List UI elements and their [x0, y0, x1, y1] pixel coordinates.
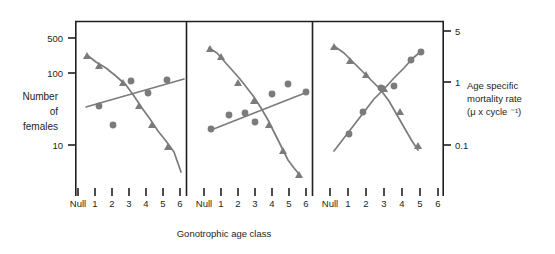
panel-3-circle-2: [378, 85, 385, 92]
panel-1-triangle-4: [148, 121, 156, 128]
panel-2-females-fit-line: [209, 48, 299, 174]
panel-1-circle-5: [164, 77, 171, 84]
panel-1-mortality-fit-line: [86, 79, 184, 107]
panel-2-xlabel-5: 5: [286, 198, 291, 209]
right-axis-title-line-3: (μ x cycle ⁻¹): [467, 106, 521, 117]
panel-2-xlabel-6: 6: [303, 198, 308, 209]
panel-2-circle-4: [269, 91, 276, 98]
left-axis-title-line-3: females: [23, 121, 58, 132]
panel-1-xlabel-4: 4: [143, 198, 148, 209]
panel-2-triangle-null: [206, 45, 214, 52]
panel-2-x-ticks: [204, 188, 306, 196]
panel-3-xlabel-4: 4: [399, 198, 404, 209]
right-tick-label-5: 5: [455, 26, 460, 37]
left-tick-label-500: 500: [47, 33, 63, 44]
right-axis-ticks: [443, 31, 451, 145]
chart-svg: 500 100 10 Number of females 5 1 0.1 Age…: [0, 0, 555, 254]
panel-1-xlabel-6: 6: [177, 198, 182, 209]
panel-3-xlabel-5: 5: [417, 198, 422, 209]
panel-1-xlabel-null: Null: [70, 198, 86, 209]
panel-3-x-tick-labels: Null 1 2 3 4 5 6: [322, 198, 441, 209]
panel-3-triangle-4: [396, 108, 404, 115]
panel-3-xlabel-6: 6: [435, 198, 440, 209]
panel-1-xlabel-5: 5: [160, 198, 165, 209]
panel-3-triangle-null: [330, 43, 338, 50]
right-axis-title-line-1: Age specific: [467, 80, 518, 91]
plot-frame: [75, 22, 444, 197]
panel-2-xlabel-4: 4: [269, 198, 274, 209]
panel-2-triangle-5: [279, 147, 287, 154]
panel-2-triangle-4: [265, 121, 273, 128]
panel-1-triangle-3: [135, 102, 143, 109]
panel-3-xlabel-null: Null: [322, 198, 338, 209]
left-axis-title: Number of females: [22, 91, 58, 132]
panel-1-triangle-null: [83, 52, 91, 59]
panel-2-circle-5: [285, 81, 292, 88]
panel-2-x-tick-labels: Null 1 2 3 4 5 6: [196, 198, 309, 209]
panel-2-mortality-fit-line: [211, 93, 305, 130]
panel-2-xlabel-null: Null: [196, 198, 212, 209]
left-axis-title-line-1: Number: [22, 91, 58, 102]
panel-1-xlabel-2: 2: [109, 198, 114, 209]
right-tick-label-01: 0.1: [455, 140, 468, 151]
panel-3-circle-4: [408, 57, 415, 64]
panel-2-triangle-6: [295, 171, 303, 178]
panel-1-mortality-markers: [96, 77, 171, 129]
panel-3-xlabel-1: 1: [345, 198, 350, 209]
panel-3: Null 1 2 3 4 5 6: [322, 43, 441, 209]
x-axis-title: Gonotrophic age class: [177, 228, 272, 239]
left-tick-label-10: 10: [52, 140, 63, 151]
panel-3-x-ticks: [330, 188, 438, 196]
panel-2-circle-3: [252, 119, 259, 126]
panel-2-circle-null: [208, 126, 215, 133]
panel-3-circle-5: [418, 49, 425, 56]
panel-3-circle-1: [360, 109, 367, 116]
panel-3-triangle-1: [346, 57, 354, 64]
panel-3-circle-null: [346, 131, 353, 138]
panel-1-xlabel-3: 3: [126, 198, 131, 209]
right-axis-title-line-2: mortality rate: [467, 93, 522, 104]
panel-1-circle-2: [110, 122, 117, 129]
panel-2-xlabel-1: 1: [218, 198, 223, 209]
right-axis-title: Age specific mortality rate (μ x cycle ⁻…: [467, 80, 522, 117]
left-axis-ticks: [68, 38, 76, 145]
right-tick-label-1: 1: [455, 77, 460, 88]
panel-1-x-ticks: [78, 188, 180, 196]
panel-2-circle-1: [226, 112, 233, 119]
left-tick-label-100: 100: [47, 68, 63, 79]
panel-1-female-markers: [83, 52, 172, 150]
figure-container: 500 100 10 Number of females 5 1 0.1 Age…: [0, 0, 555, 254]
panel-1-x-tick-labels: Null 1 2 3 4 5 6: [70, 198, 183, 209]
panel-2-circle-6: [303, 89, 310, 96]
panel-2-xlabel-3: 3: [252, 198, 257, 209]
left-axis-title-line-2: of: [50, 106, 59, 117]
panel-3-mortality-markers: [346, 49, 425, 138]
panel-2-xlabel-2: 2: [235, 198, 240, 209]
panel-3-circle-3: [391, 83, 398, 90]
panel-2-circle-2: [242, 110, 249, 117]
panel-1-circle-1: [96, 103, 103, 110]
panel-2: Null 1 2 3 4 5 6: [196, 45, 310, 209]
panel-3-xlabel-2: 2: [363, 198, 368, 209]
panel-1: Null 1 2 3 4 5 6: [70, 52, 184, 209]
panel-1-circle-4: [145, 90, 152, 97]
panel-3-xlabel-3: 3: [381, 198, 386, 209]
panel-1-circle-3: [128, 78, 135, 85]
panel-2-female-markers: [206, 45, 303, 178]
panel-1-xlabel-1: 1: [92, 198, 97, 209]
panel-1-females-fit-line: [87, 55, 181, 172]
